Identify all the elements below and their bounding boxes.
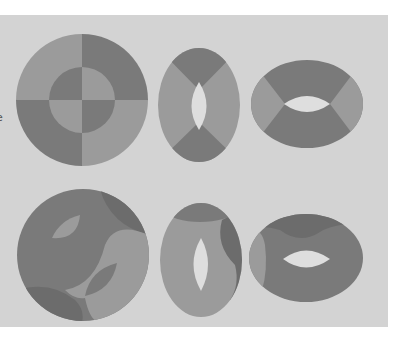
vertical-torus-view <box>158 48 240 162</box>
vertical-shaded-torus <box>160 203 242 317</box>
torus-diagram <box>0 15 388 327</box>
figure-panel: e l <box>0 15 388 327</box>
horizontal-torus-view <box>251 60 363 148</box>
horizontal-shaded-torus <box>249 214 363 302</box>
segmented-disk <box>16 34 148 166</box>
shaded-sphere-torus <box>17 189 149 322</box>
